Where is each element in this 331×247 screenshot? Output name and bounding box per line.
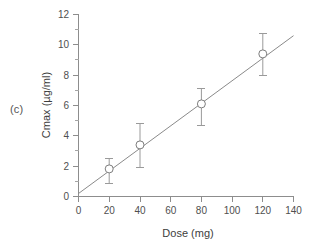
x-tick-label-140: 140 (285, 205, 302, 216)
y-tick-label-0: 0 (63, 191, 69, 202)
cmax-vs-dose-scatter-chart: 0 2 4 6 8 10 12 0 20 40 60 80 100 120 (0, 0, 331, 247)
y-axis-ticks (73, 15, 79, 197)
data-series-cmax (105, 33, 267, 183)
data-point-20mg (105, 159, 113, 184)
marker-20mg (105, 165, 113, 173)
y-axis-tick-labels: 0 2 4 6 8 10 12 (58, 9, 70, 202)
marker-120mg (259, 50, 267, 58)
y-tick-label-4: 4 (63, 130, 69, 141)
data-point-120mg (259, 33, 267, 75)
y-tick-label-8: 8 (63, 70, 69, 81)
x-axis-tick-labels: 0 20 40 60 80 100 120 140 (76, 205, 303, 216)
x-tick-label-120: 120 (254, 205, 271, 216)
x-tick-label-20: 20 (104, 205, 116, 216)
y-tick-label-2: 2 (63, 161, 69, 172)
marker-80mg (197, 100, 205, 108)
y-tick-label-10: 10 (58, 39, 70, 50)
x-axis-title: Dose (mg) (162, 227, 213, 239)
x-tick-label-0: 0 (76, 205, 82, 216)
x-tick-label-40: 40 (134, 205, 146, 216)
y-tick-label-12: 12 (58, 9, 70, 20)
data-point-80mg (197, 89, 205, 125)
marker-40mg (136, 141, 144, 149)
figure-panel: (c) 0 2 4 6 8 10 (0, 0, 331, 247)
y-tick-label-6: 6 (63, 100, 69, 111)
x-tick-label-60: 60 (165, 205, 177, 216)
x-tick-label-100: 100 (224, 205, 241, 216)
x-tick-label-80: 80 (196, 205, 208, 216)
y-axis-title: Cmax (µg/ml) (40, 72, 52, 138)
data-point-40mg (136, 123, 144, 167)
x-axis-ticks (79, 197, 294, 203)
